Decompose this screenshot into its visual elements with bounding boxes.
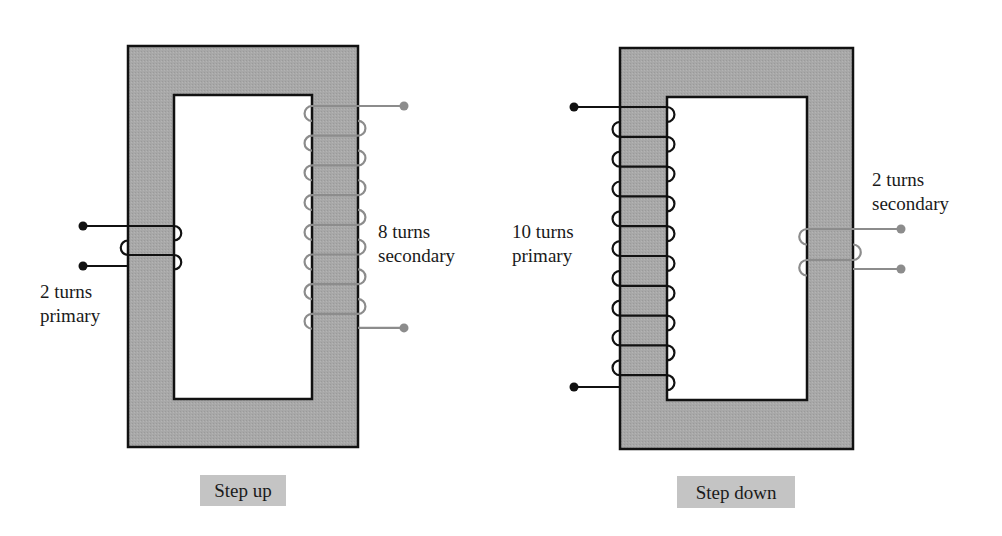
terminal-dot	[79, 262, 88, 271]
step-down-secondary-label-line2: secondary	[872, 193, 950, 214]
step-down-core	[620, 48, 853, 449]
step-up-primary-label-line1: 2 turns	[40, 281, 92, 302]
step-down-caption: Step down	[696, 482, 777, 503]
terminal-dot	[400, 323, 409, 332]
terminal-dot	[570, 103, 579, 112]
terminal-dot	[400, 102, 409, 111]
step-up-secondary-label-line2: secondary	[378, 245, 456, 266]
terminal-dot	[897, 265, 906, 274]
step-up-caption: Step up	[214, 480, 272, 501]
step-down-primary-label-line2: primary	[512, 245, 573, 266]
step-up-secondary-label-line1: 8 turns	[378, 221, 430, 242]
step-down-secondary-label-line1: 2 turns	[872, 169, 924, 190]
step-down-transformer: 10 turns primary 2 turns secondary Step …	[512, 48, 950, 508]
step-up-transformer: 8 turns secondary 2 turns primary Step u…	[40, 46, 456, 506]
terminal-dot	[897, 225, 906, 234]
terminal-dot	[570, 383, 579, 392]
step-down-primary-label-line1: 10 turns	[512, 221, 574, 242]
terminal-dot	[79, 222, 88, 231]
step-up-primary-label-line2: primary	[40, 305, 101, 326]
transformer-diagrams: 8 turns secondary 2 turns primary Step u…	[0, 0, 1002, 536]
